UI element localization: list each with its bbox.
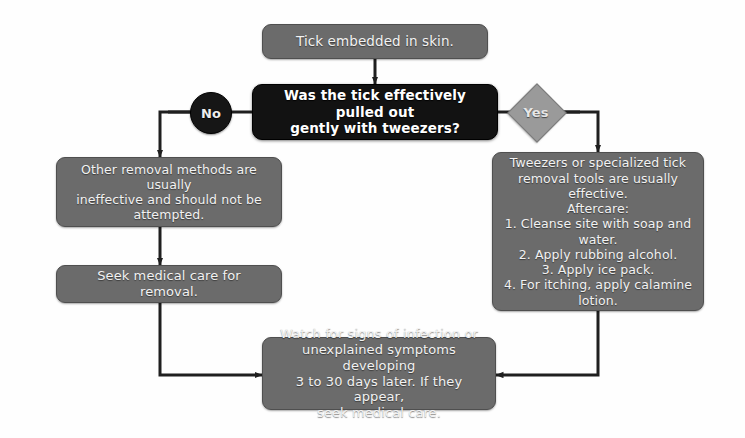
flowchart-canvas: Tick embedded in skin. Was the tick effe… [0, 0, 745, 438]
node-start[interactable]: Tick embedded in skin. [262, 24, 488, 59]
node-seek-medical-care[interactable]: Seek medical care for removal. [56, 265, 282, 303]
edge-seek-care-to-watch [160, 303, 262, 375]
edge-right-box-to-watch [496, 311, 598, 375]
edge-no-to-left-box [160, 112, 190, 157]
branch-label-no[interactable]: No [190, 92, 232, 134]
node-tweezers-aftercare[interactable]: Tweezers or specialized tick removal too… [492, 152, 704, 311]
node-watch-for-signs[interactable]: Watch for signs of infection or unexplai… [262, 337, 496, 410]
branch-label-yes[interactable]: Yes [512, 105, 560, 120]
node-decision[interactable]: Was the tick effectively pulled out gent… [252, 84, 498, 140]
edge-yes-to-right-box [556, 112, 598, 152]
node-other-removal-methods[interactable]: Other removal methods are usually ineffe… [56, 157, 282, 227]
